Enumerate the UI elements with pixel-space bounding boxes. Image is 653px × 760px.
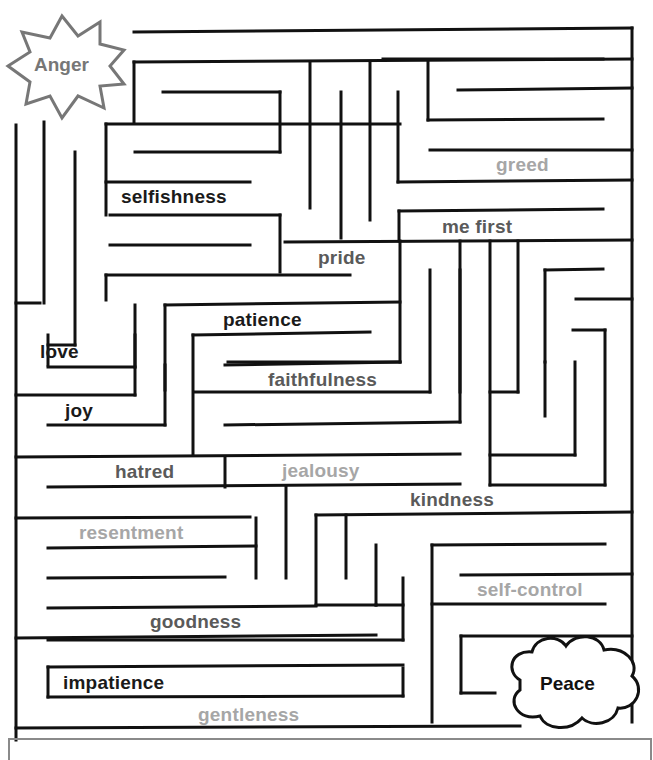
maze-word-joy: joy [65, 401, 93, 420]
maze-wall [48, 484, 460, 487]
maze-word-gentleness: gentleness [198, 705, 299, 724]
maze-word-selfishness: selfishness [121, 187, 227, 206]
maze-word-faithfulness: faithfulness [268, 370, 377, 389]
answer-box [8, 738, 652, 760]
maze-word-love: love [40, 342, 79, 361]
maze-word-pride: pride [318, 248, 365, 267]
start-label: Anger [34, 55, 89, 74]
maze-word-patience: patience [223, 310, 302, 329]
maze-wall [458, 88, 632, 90]
maze-wall [48, 665, 403, 667]
maze-wall [16, 635, 376, 638]
maze-wall [398, 180, 632, 182]
finish-label: Peace [540, 674, 595, 693]
maze-wall [134, 28, 632, 32]
maze-wall [16, 454, 460, 457]
maze-word-impatience: impatience [63, 673, 164, 692]
maze-wall [193, 332, 370, 335]
maze-wall [165, 302, 400, 305]
maze-word-kindness: kindness [410, 490, 494, 509]
maze-wall [399, 209, 603, 211]
maze-wall [428, 119, 603, 120]
maze-wall [48, 546, 256, 548]
maze-word-self-control: self-control [477, 580, 583, 599]
maze-wall [225, 422, 460, 425]
maze-word-goodness: goodness [150, 612, 241, 631]
maze-wall [432, 544, 605, 545]
maze-wall [48, 696, 403, 697]
maze-wall [48, 577, 225, 578]
maze-word-hatred: hatred [115, 462, 174, 481]
maze-wall [16, 726, 520, 728]
maze-word-jealousy: jealousy [282, 461, 360, 480]
maze-wall [16, 517, 250, 518]
maze-wall [48, 606, 316, 608]
maze-word-greed: greed [496, 155, 549, 174]
maze-wall [316, 512, 632, 515]
maze-wall [545, 269, 603, 270]
maze-word-resentment: resentment [79, 523, 183, 542]
maze-word-me-first: me first [442, 217, 512, 236]
maze-wall [461, 574, 632, 575]
